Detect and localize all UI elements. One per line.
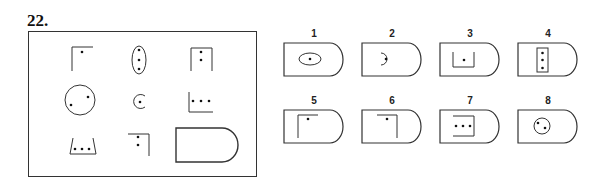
option-1[interactable]	[284, 43, 343, 76]
option-5[interactable]	[284, 110, 343, 143]
option-7[interactable]	[440, 110, 499, 143]
option-4[interactable]	[518, 43, 577, 76]
option-8[interactable]	[518, 110, 577, 143]
option-3[interactable]	[440, 43, 499, 76]
option-2[interactable]	[362, 43, 421, 76]
option-6[interactable]	[362, 110, 421, 143]
answer-options[interactable]	[0, 0, 610, 181]
